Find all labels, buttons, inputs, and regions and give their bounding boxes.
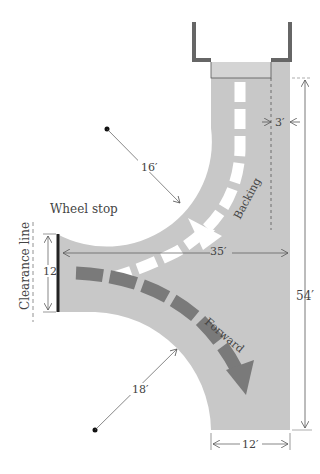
dimension-radius-bottom: 18′ — [132, 383, 149, 396]
driveway-turnaround-diagram: 3′ 54′ 35′ 12 12′ 16′ 18′ Wheel stop Cle… — [0, 0, 320, 474]
dimension-width-bottom: 12′ — [242, 438, 259, 451]
dimension-offset: 3′ — [275, 116, 285, 129]
pavement — [57, 60, 290, 430]
dimension-length-horizontal: 35′ — [210, 245, 227, 258]
dimension-radius-top: 16′ — [141, 161, 158, 174]
dimension-width-left: 12 — [43, 265, 57, 278]
wheel-stop-label: Wheel stop — [50, 202, 118, 216]
dimension-length-vertical: 54′ — [296, 289, 314, 303]
clearance-line-label: Clearance line — [18, 222, 32, 310]
